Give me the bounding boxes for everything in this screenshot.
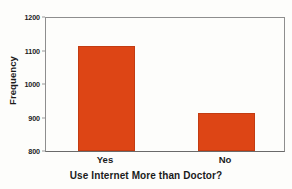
y-axis-title-text: Frequency	[7, 56, 18, 105]
bars-layer	[46, 18, 284, 151]
y-tick-label: 900	[28, 113, 40, 122]
x-category-label: No	[219, 154, 232, 165]
y-axis-tick-labels: 800900100011001200	[20, 11, 42, 153]
x-axis-title: Use Internet More than Doctor?	[0, 170, 292, 181]
bar-chart-figure: Frequency 800900100011001200 YesNo Use I…	[0, 0, 292, 189]
x-axis-category-labels: YesNo	[45, 154, 285, 168]
bar-yes	[78, 46, 135, 151]
y-tick-label: 1100	[25, 46, 40, 55]
plot-area	[45, 17, 285, 152]
bar-no	[198, 113, 255, 151]
y-tick-label: 1000	[24, 80, 40, 89]
x-category-label: Yes	[97, 154, 113, 165]
y-tick-label: 800	[28, 147, 40, 156]
y-tick-label: 1200	[24, 13, 40, 22]
